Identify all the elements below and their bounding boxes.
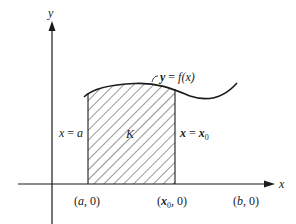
x-axis-label: x [278, 177, 285, 191]
y-axis [49, 21, 56, 224]
region-label-k: K [125, 127, 135, 141]
area-under-curve-diagram: y x y = f(x) x = a K x = x0 (a, 0) (x0, … [0, 0, 296, 224]
label-x-equals-x0: x = x0 [179, 126, 209, 142]
curve-label-leader [152, 76, 158, 82]
point-label-b0: (b, 0) [233, 194, 259, 208]
point-label-a0: (a, 0) [74, 194, 100, 208]
diagram-svg: y x y = f(x) x = a K x = x0 (a, 0) (x0, … [0, 0, 296, 224]
x-axis-arrow-icon [264, 181, 275, 188]
curve-label: y = f(x) [158, 70, 195, 84]
y-axis-arrow-icon [49, 21, 56, 31]
label-x-equals-a: x = a [58, 126, 83, 140]
point-label-x0-0: (x0, 0) [157, 194, 187, 210]
y-axis-label: y [47, 6, 54, 20]
